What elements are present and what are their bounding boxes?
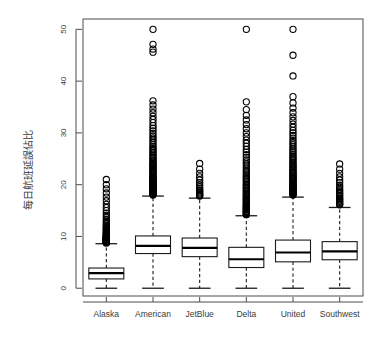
outlier-point <box>290 94 296 100</box>
y-axis-tick-label: 40 <box>59 76 68 85</box>
y-axis-group: 01020304050 <box>59 24 82 290</box>
box-group-american <box>136 26 171 288</box>
y-axis-tick-label: 10 <box>59 231 68 240</box>
y-axis-title-group: 每日航班延誤佔比 <box>22 130 34 210</box>
x-axis-label-alaska: Alaska <box>94 309 120 319</box>
y-axis-tick-label: 20 <box>59 180 68 189</box>
y-axis-tick-label: 50 <box>59 24 68 33</box>
x-axis-label-united: United <box>281 309 306 319</box>
box-iqr <box>276 240 311 262</box>
box-series-group <box>89 26 357 288</box>
chart-canvas: 每日航班延誤佔比 01020304050 AlaskaAmericanJetBl… <box>0 0 380 351</box>
outlier-point <box>150 26 156 32</box>
x-axis-label-delta: Delta <box>236 309 256 319</box>
outlier-point <box>243 99 249 105</box>
y-axis-tick-label: 0 <box>59 285 68 290</box>
y-axis-title: 每日航班延誤佔比 <box>22 130 34 210</box>
outlier-point <box>290 26 296 32</box>
x-axis-label-jetblue: JetBlue <box>185 309 214 319</box>
x-axis-label-american: American <box>135 309 171 319</box>
x-axis-group: AlaskaAmericanJetBlueDeltaUnitedSouthwes… <box>83 297 363 319</box>
box-group-delta <box>229 26 264 288</box>
box-group-alaska <box>89 176 124 288</box>
box-group-jetblue <box>182 160 217 288</box>
plot-frame <box>83 19 363 296</box>
outlier-point <box>243 26 249 32</box>
box-iqr <box>229 247 264 267</box>
outlier-point <box>290 52 296 58</box>
y-axis-tick-label: 30 <box>59 128 68 137</box>
outlier-point <box>290 73 296 79</box>
box-group-southwest <box>322 161 357 288</box>
box-group-united <box>276 26 311 288</box>
plot-border <box>83 19 363 296</box>
x-axis-label-southwest: Southwest <box>320 309 360 319</box>
boxplot-figure: 每日航班延誤佔比 01020304050 AlaskaAmericanJetBl… <box>0 0 380 351</box>
